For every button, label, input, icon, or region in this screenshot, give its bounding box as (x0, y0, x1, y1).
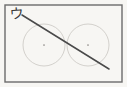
paper-background (0, 0, 127, 87)
left-circle-center-dot (43, 44, 45, 46)
figure-canvas (0, 0, 127, 87)
right-circle-center-dot (87, 44, 89, 46)
figure-root: ウ (0, 0, 127, 87)
